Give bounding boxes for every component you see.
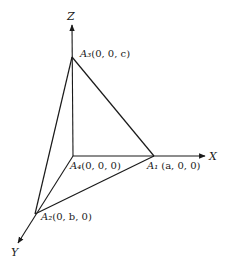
a3-coords: (0, 0, c) xyxy=(91,48,130,59)
edge-a2-a3 xyxy=(35,57,72,214)
a1-coords: (a, 0, 0) xyxy=(161,160,200,171)
a2-name: A₂ xyxy=(40,211,52,222)
a1-name: A₁ xyxy=(146,160,158,171)
point-a2-label: A₂(0, b, 0) xyxy=(40,211,92,222)
a4-coords: (0, 0, 0) xyxy=(81,160,121,171)
z-axis xyxy=(72,25,73,156)
point-a3-label: A₃(0, 0, c) xyxy=(79,48,130,59)
edge-a1-a3 xyxy=(72,57,154,156)
point-a4-label: A₄(0, 0, 0) xyxy=(69,160,121,171)
x-axis-label: X xyxy=(208,150,218,163)
z-axis-label: Z xyxy=(66,10,75,23)
a3-name: A₃ xyxy=(79,48,91,59)
a2-coords: (0, b, 0) xyxy=(52,211,92,222)
y-axis-label: Y xyxy=(11,246,20,259)
point-a1-label: A₁(a, 0, 0) xyxy=(146,160,201,171)
a4-name: A₄ xyxy=(69,160,81,171)
tetrahedron-diagram: Z X Y A₃(0, 0, c) A₄(0, 0, 0) A₁(a, 0, 0… xyxy=(0,0,229,273)
